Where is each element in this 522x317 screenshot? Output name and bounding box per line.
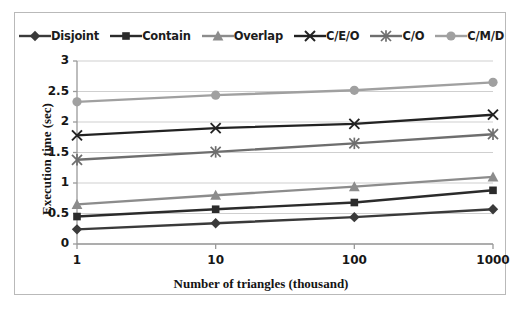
- diamond-marker: [488, 204, 498, 214]
- x-tick-label: 1000: [453, 253, 522, 267]
- square-marker: [351, 199, 359, 207]
- circle-marker: [72, 97, 81, 106]
- square-marker: [73, 213, 81, 221]
- series-line: [77, 82, 493, 102]
- x-tick-label: 100: [314, 253, 394, 267]
- y-tick-label: 0: [61, 236, 69, 250]
- y-axis-title: Execution time (sec): [39, 103, 55, 215]
- series-c-e-o: [72, 110, 498, 141]
- y-tick-label: 1: [61, 175, 69, 189]
- chart-figure: DisjointContainOverlapC/E/OC/OC/M/D 00.5…: [0, 0, 522, 317]
- series-line: [77, 134, 493, 160]
- diamond-marker: [210, 218, 220, 228]
- series-disjoint: [72, 204, 498, 235]
- circle-marker: [350, 86, 359, 95]
- y-tick-label: 3: [61, 53, 69, 67]
- series-line: [77, 177, 493, 204]
- circle-marker: [488, 78, 497, 87]
- series-overlap: [72, 172, 499, 209]
- diamond-marker: [72, 224, 82, 234]
- series-c-o: [72, 128, 498, 165]
- y-tick-label: 2.5: [48, 84, 69, 98]
- square-marker: [212, 205, 220, 213]
- x-axis-title: Number of triangles (thousand): [15, 276, 507, 292]
- series-c-m-d: [72, 78, 497, 107]
- plot-area: 00.511.522.531101001000 Number of triang…: [15, 13, 507, 296]
- x-tick-label: 10: [176, 253, 256, 267]
- y-tick-label: 2: [61, 114, 69, 128]
- chart-frame: DisjointContainOverlapC/E/OC/OC/M/D 00.5…: [14, 12, 506, 295]
- series-line: [77, 115, 493, 136]
- x-tick-label: 1: [37, 253, 117, 267]
- circle-marker: [211, 91, 220, 100]
- square-marker: [489, 187, 497, 195]
